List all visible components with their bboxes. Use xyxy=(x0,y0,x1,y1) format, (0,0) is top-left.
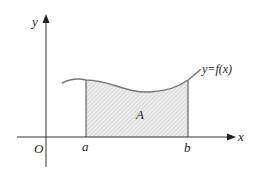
x-axis-arrow-icon xyxy=(227,134,236,141)
area-under-curve-diagram: y x O a b A y=f(x) xyxy=(0,0,254,181)
curve-label: y=f(x) xyxy=(201,62,232,76)
y-axis-label: y xyxy=(30,14,38,29)
region-label: A xyxy=(135,107,144,122)
origin-label: O xyxy=(34,141,44,156)
y-axis-arrow-icon xyxy=(43,14,50,23)
x-axis-label: x xyxy=(237,129,244,144)
lower-bound-label: a xyxy=(82,139,89,154)
upper-bound-label: b xyxy=(184,140,191,155)
